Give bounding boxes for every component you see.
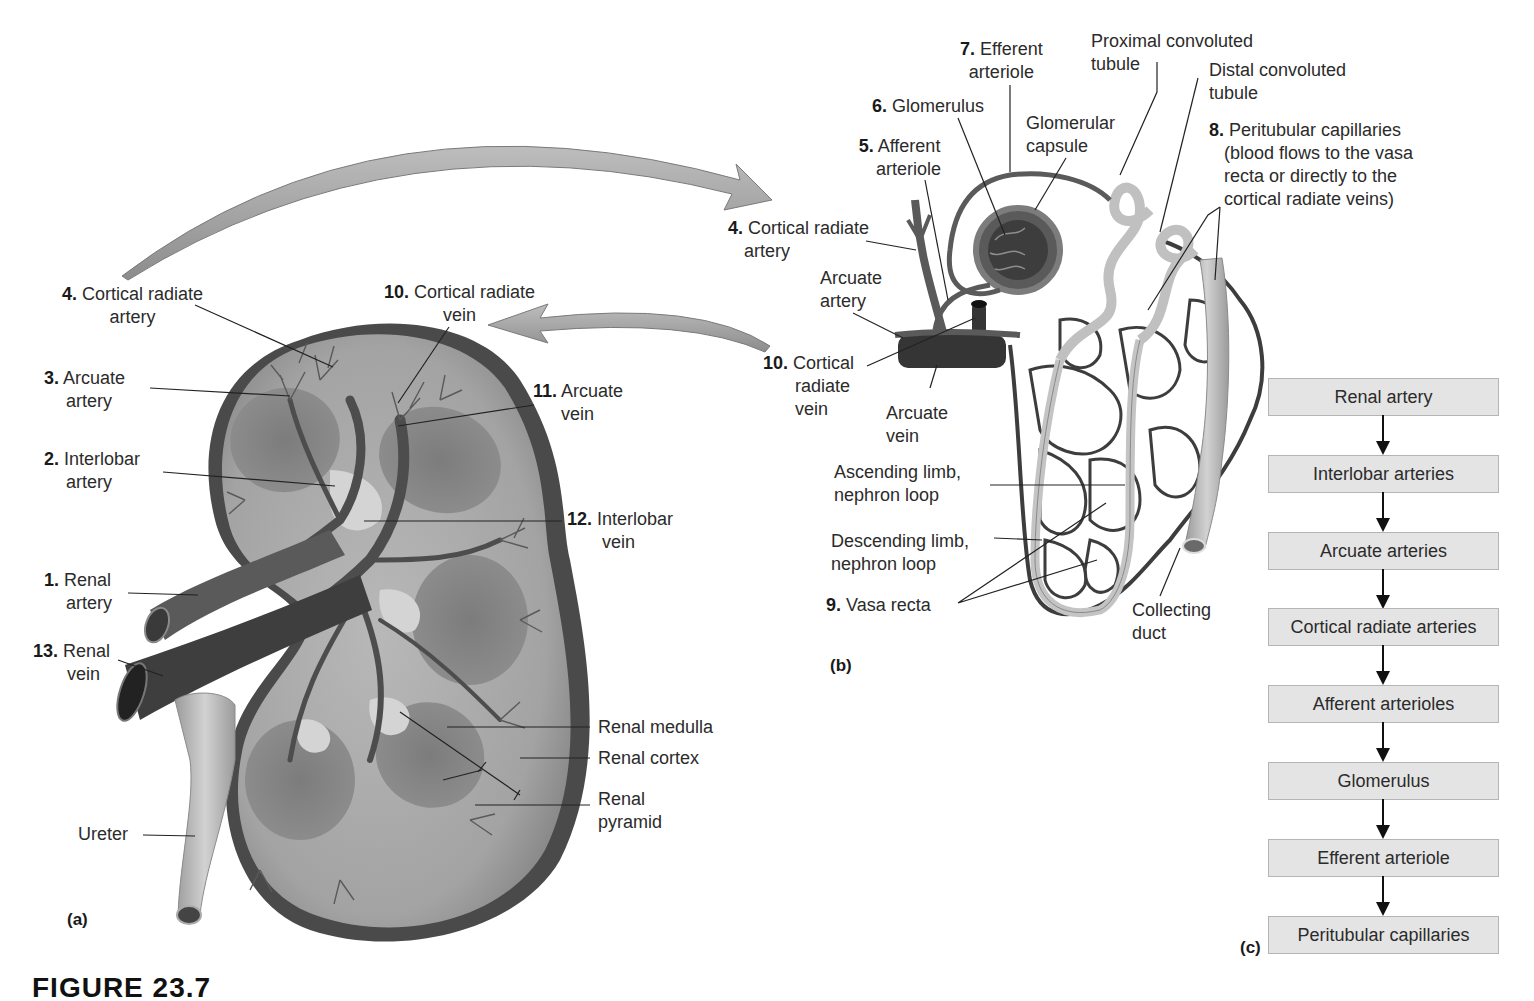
label-cortical-radiate-artery: 4. Cortical radiate artery bbox=[62, 283, 203, 329]
flow-step-peritubular-capillaries: Peritubular capillaries bbox=[1268, 916, 1499, 954]
flow-step-interlobar-arteries: Interlobar arteries bbox=[1268, 455, 1499, 493]
label-cortical-radiate-vein: 10. Cortical radiate vein bbox=[384, 281, 535, 327]
figure-caption: FIGURE 23.7 bbox=[32, 972, 211, 1001]
label-renal-medulla: Renal medulla bbox=[598, 716, 713, 739]
kidney-section bbox=[111, 324, 589, 942]
label-renal-artery: 1. Renal artery bbox=[44, 569, 112, 615]
down-arrow-icon bbox=[1376, 722, 1390, 763]
label-arcuate-artery-b: Arcuate artery bbox=[820, 267, 882, 313]
down-arrow-icon bbox=[1376, 799, 1390, 840]
label-glomerulus: 6. Glomerulus bbox=[872, 95, 984, 118]
down-arrow-icon bbox=[1376, 645, 1390, 686]
label-renal-pyramid: Renal pyramid bbox=[598, 788, 662, 834]
label-arcuate-vein: 11. Arcuate vein bbox=[533, 380, 623, 426]
down-arrow-icon bbox=[1376, 492, 1390, 533]
flow-step-arcuate-arteries: Arcuate arteries bbox=[1268, 532, 1499, 570]
panel-letter-b: (b) bbox=[830, 656, 852, 676]
flow-step-glomerulus: Glomerulus bbox=[1268, 762, 1499, 800]
label-descending-limb: Descending limb, nephron loop bbox=[831, 530, 969, 576]
label-afferent-arteriole: 5. Afferent arteriole bbox=[858, 135, 941, 181]
flow-step-renal-artery: Renal artery bbox=[1268, 378, 1499, 416]
label-renal-cortex: Renal cortex bbox=[598, 747, 699, 770]
curved-arrow-to-nephron bbox=[122, 146, 772, 280]
flow-step-cortical-radiate-arteries: Cortical radiate arteries bbox=[1268, 608, 1499, 646]
label-ascending-limb: Ascending limb, nephron loop bbox=[834, 461, 961, 507]
panel-letter-a: (a) bbox=[67, 910, 88, 930]
label-interlobar-vein: 12. Interlobar vein bbox=[567, 508, 673, 554]
panel-letter-c: (c) bbox=[1240, 938, 1261, 958]
label-renal-vein: 13. Renal vein bbox=[33, 640, 110, 686]
label-arcuate-artery: 3. Arcuate artery bbox=[44, 367, 125, 413]
label-ureter: Ureter bbox=[78, 823, 128, 846]
label-distal-convoluted-tubule: Distal convoluted tubule bbox=[1209, 59, 1346, 105]
label-vasa-recta: 9. Vasa recta bbox=[826, 594, 931, 617]
label-glomerular-capsule: Glomerular capsule bbox=[1026, 112, 1115, 158]
label-cortical-radiate-artery-b: 4. Cortical radiate artery bbox=[728, 217, 869, 263]
down-arrow-icon bbox=[1376, 569, 1390, 610]
down-arrow-icon bbox=[1376, 415, 1390, 456]
label-cortical-radiate-vein-b: 10. Cortical radiate vein bbox=[763, 352, 854, 421]
label-peritubular-capillaries: 8. Peritubular capillaries (blood flows … bbox=[1209, 119, 1413, 211]
label-interlobar-artery: 2. Interlobar artery bbox=[44, 448, 140, 494]
label-arcuate-vein-b: Arcuate vein bbox=[886, 402, 948, 448]
label-collecting-duct: Collecting duct bbox=[1132, 599, 1211, 645]
label-efferent-arteriole: 7. Efferent arteriole bbox=[960, 38, 1043, 84]
down-arrow-icon bbox=[1376, 876, 1390, 917]
flow-step-afferent-arterioles: Afferent arterioles bbox=[1268, 685, 1499, 723]
flow-step-efferent-arteriole: Efferent arteriole bbox=[1268, 839, 1499, 877]
